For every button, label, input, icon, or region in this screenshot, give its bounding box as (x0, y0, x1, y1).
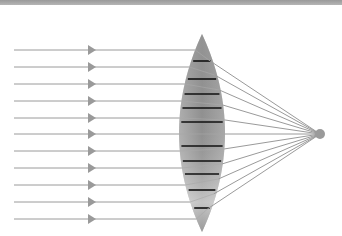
converging-ray (222, 134, 320, 164)
arrow-head-icon (88, 129, 96, 139)
focal-point-dot (315, 129, 325, 139)
arrow-head-icon (88, 79, 96, 89)
converging-ray (215, 75, 320, 134)
converging-ray (223, 105, 320, 134)
lens-diagram (0, 0, 342, 236)
arrow-head-icon (88, 180, 96, 190)
arrow-head-icon (88, 45, 96, 55)
converging-ray (209, 60, 320, 134)
converging-ray (214, 134, 320, 194)
arrow-head-icon (88, 197, 96, 207)
focal-point (315, 129, 325, 139)
arrow-head-icon (88, 62, 96, 72)
arrow-head-icon (88, 146, 96, 156)
converging-ray (224, 120, 320, 134)
arrow-head-icon (88, 96, 96, 106)
converging-ray (219, 90, 320, 134)
light-rays (14, 45, 320, 224)
arrow-head-icon (88, 163, 96, 173)
converging-ray (219, 134, 320, 179)
converging-ray (224, 134, 320, 149)
arrow-head-icon (88, 113, 96, 123)
arrow-head-icon (88, 214, 96, 224)
